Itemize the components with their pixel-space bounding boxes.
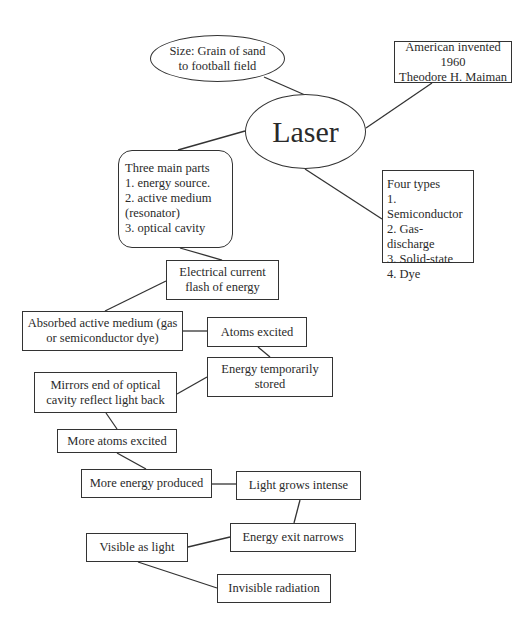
- edge-electrical-absorbed: [105, 281, 166, 311]
- invented-text: American invented 1960 Theodore H. Maima…: [399, 40, 507, 85]
- edge-mirrors-moreatoms: [106, 413, 117, 429]
- invisible-radiation-box: Invisible radiation: [217, 574, 331, 603]
- edge-visible-invisible: [138, 562, 217, 588]
- more-energy-box: More energy produced: [81, 469, 212, 498]
- edge-atoms-stored: [258, 347, 270, 357]
- more-atoms-box: More atoms excited: [57, 429, 177, 453]
- edge-parts-electrical: [180, 248, 222, 260]
- exit-narrows-text: Energy exit narrows: [242, 530, 343, 545]
- mirrors-text: Mirrors end of optical cavity reflect li…: [46, 378, 164, 408]
- electrical-current-text: Electrical current flash of energy: [179, 265, 265, 295]
- edge-laser-types: [305, 169, 382, 219]
- invisible-radiation-text: Invisible radiation: [228, 581, 319, 596]
- laser-central-ellipse: Laser: [245, 94, 366, 169]
- four-types-text: Four types 1. Semiconductor 2. Gas-disch…: [387, 177, 469, 282]
- more-atoms-text: More atoms excited: [67, 434, 166, 449]
- exit-narrows-box: Energy exit narrows: [230, 523, 356, 552]
- edge-narrows-visible: [188, 537, 230, 547]
- edge-stored-mirrors: [177, 377, 207, 394]
- absorbed-text: Absorbed active medium (gas or semicondu…: [28, 316, 178, 346]
- size-text: Size: Grain of sand to football field: [169, 44, 265, 74]
- size-ellipse: Size: Grain of sand to football field: [150, 35, 285, 82]
- atoms-excited-text: Atoms excited: [221, 325, 294, 340]
- edge-intense-narrows: [294, 500, 300, 523]
- three-parts-box: Three main parts 1. energy source. 2. ac…: [118, 150, 233, 248]
- edge-size-laser: [264, 77, 305, 95]
- four-types-box: Four types 1. Semiconductor 2. Gas-disch…: [382, 170, 474, 263]
- energy-stored-box: Energy temporarily stored: [207, 357, 333, 397]
- visible-light-box: Visible as light: [86, 533, 188, 562]
- light-intense-text: Light grows intense: [249, 478, 348, 493]
- more-energy-text: More energy produced: [90, 476, 204, 491]
- energy-stored-text: Energy temporarily stored: [221, 362, 318, 392]
- edge-moreatoms-moreenergy: [117, 453, 146, 469]
- mirrors-box: Mirrors end of optical cavity reflect li…: [34, 372, 177, 413]
- invented-box: American invented 1960 Theodore H. Maima…: [394, 41, 512, 83]
- absorbed-box: Absorbed active medium (gas or semicondu…: [22, 311, 183, 351]
- edge-laser-parts: [178, 131, 245, 150]
- laser-title: Laser: [272, 116, 339, 148]
- atoms-excited-box: Atoms excited: [207, 317, 307, 347]
- edge-invented-laser: [366, 83, 432, 128]
- light-intense-box: Light grows intense: [236, 471, 361, 500]
- visible-light-text: Visible as light: [100, 540, 175, 555]
- electrical-current-box: Electrical current flash of energy: [166, 260, 279, 300]
- three-parts-text: Three main parts 1. energy source. 2. ac…: [125, 161, 211, 236]
